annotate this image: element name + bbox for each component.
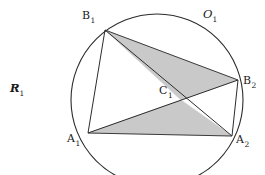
label-point-B1: B1 — [82, 10, 96, 21]
label-point-A1-text: A — [67, 132, 75, 145]
label-point-A2: A2 — [236, 134, 249, 145]
label-circle-O1: O1 — [203, 9, 217, 21]
label-radius-R1-text: R — [10, 81, 20, 95]
label-point-C1: C1 — [159, 85, 173, 96]
circumscribed-circle — [71, 14, 243, 175]
chord-B2-A2 — [232, 80, 238, 136]
label-point-C1-sub: 1 — [168, 91, 173, 100]
label-point-C1-text: C — [159, 84, 168, 97]
label-point-A1: A1 — [67, 133, 80, 144]
geometry-canvas — [0, 0, 265, 175]
label-radius-R1: R1 — [10, 83, 24, 95]
label-point-B2-sub: 2 — [251, 81, 256, 90]
label-circle-O1-sub: 1 — [212, 15, 217, 24]
label-point-A2-sub: 2 — [244, 140, 249, 149]
label-radius-R1-sub: 1 — [20, 89, 25, 98]
label-point-A2-text: A — [236, 133, 244, 146]
label-point-A1-sub: 1 — [75, 139, 80, 148]
geometry-figure: B1 B2 A1 A2 C1 O1 R1 — [0, 0, 265, 175]
label-point-B1-sub: 1 — [90, 16, 95, 25]
label-point-B2: B2 — [243, 75, 257, 86]
